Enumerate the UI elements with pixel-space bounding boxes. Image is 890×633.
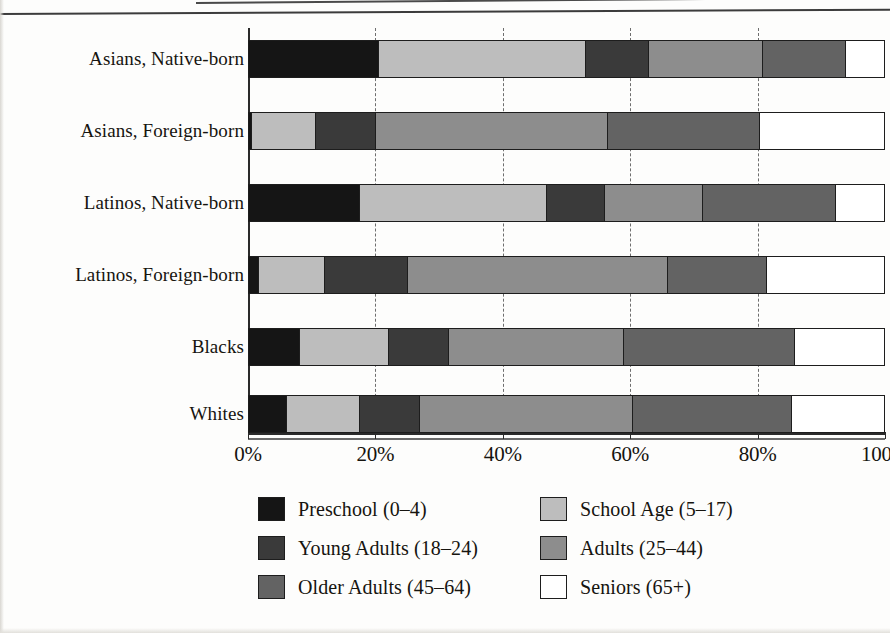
bar-segment	[325, 257, 408, 293]
category-label-2: Latinos, Native-born	[84, 192, 244, 214]
y-axis-line	[248, 28, 250, 434]
bar-segment	[316, 113, 376, 149]
category-label-5: Whites	[190, 403, 244, 425]
bar-segment	[360, 185, 547, 221]
bar-segment	[795, 329, 884, 365]
scan-edge-left	[0, 0, 4, 633]
category-label-1: Asians, Foreign-born	[81, 120, 244, 142]
x-tick-0	[248, 432, 249, 439]
category-label-0: Asians, Native-born	[89, 48, 244, 70]
bar-segment	[300, 329, 389, 365]
bar-segment	[259, 257, 326, 293]
gridline-60	[630, 28, 631, 432]
legend-swatch-icon	[258, 536, 285, 560]
bar-1	[248, 112, 885, 150]
legend-label: Adults (25–44)	[580, 537, 703, 560]
bar-segment	[249, 185, 360, 221]
bar-2	[248, 184, 885, 222]
x-tick-60	[630, 432, 631, 439]
legend-swatch-icon	[540, 575, 567, 599]
bar-segment	[763, 41, 846, 77]
bar-segment	[668, 257, 766, 293]
legend-label: Older Adults (45–64)	[298, 576, 471, 599]
bar-0	[248, 40, 885, 78]
bar-segment	[408, 257, 668, 293]
bar-segment	[586, 41, 650, 77]
x-tick-label-80: 80%	[739, 442, 777, 467]
bar-segment	[249, 329, 300, 365]
category-label-4: Blacks	[192, 336, 244, 358]
bar-segment	[449, 329, 624, 365]
bar-segment	[608, 113, 760, 149]
gridline-40	[503, 28, 504, 432]
gridline-80	[758, 28, 759, 432]
legend-label: Young Adults (18–24)	[298, 537, 478, 560]
bar-segment	[379, 41, 585, 77]
bar-segment	[249, 396, 287, 432]
bar-4	[248, 328, 885, 366]
bar-segment	[624, 329, 795, 365]
scan-edge-bottom	[0, 628, 890, 633]
bar-segment	[846, 41, 884, 77]
bar-5	[248, 395, 885, 433]
legend-label: School Age (5–17)	[580, 498, 733, 521]
bar-segment	[389, 329, 449, 365]
bar-segment	[703, 185, 836, 221]
legend-swatch-icon	[258, 575, 285, 599]
x-tick-label-100: 100%	[861, 442, 890, 467]
legend-item-2[interactable]: Young Adults (18–24)	[258, 536, 478, 560]
legend-item-1[interactable]: School Age (5–17)	[540, 497, 733, 521]
bar-segment	[547, 185, 604, 221]
bar-segment	[633, 396, 792, 432]
bar-segment	[252, 113, 316, 149]
bar-segment	[287, 396, 360, 432]
gridline-20	[375, 28, 376, 432]
bar-segment	[649, 41, 763, 77]
legend-swatch-icon	[540, 497, 567, 521]
bar-segment	[360, 396, 420, 432]
legend-swatch-icon	[540, 536, 567, 560]
bar-segment	[249, 257, 259, 293]
category-label-3: Latinos, Foreign-born	[75, 264, 244, 286]
x-tick-label-40: 40%	[484, 442, 522, 467]
chart-page: 0%20%40%60%80%100% Asians, Native-bornAs…	[0, 0, 890, 633]
bar-segment	[767, 257, 884, 293]
x-tick-100	[885, 432, 886, 439]
bar-segment	[376, 113, 608, 149]
legend-item-0[interactable]: Preschool (0–4)	[258, 497, 427, 521]
chart-legend: Preschool (0–4)School Age (5–17)Young Ad…	[0, 492, 890, 612]
x-axis-line-secondary	[248, 438, 885, 440]
x-tick-20	[375, 432, 376, 439]
bar-3	[248, 256, 885, 294]
bar-segment	[249, 41, 379, 77]
legend-label: Preschool (0–4)	[298, 498, 427, 521]
legend-item-5[interactable]: Seniors (65+)	[540, 575, 691, 599]
legend-swatch-icon	[258, 497, 285, 521]
plot-area: 0%20%40%60%80%100% Asians, Native-bornAs…	[0, 28, 890, 448]
legend-label: Seniors (65+)	[580, 576, 691, 599]
legend-item-4[interactable]: Older Adults (45–64)	[258, 575, 471, 599]
top-rule-upper	[196, 0, 890, 4]
top-rule-lower	[0, 9, 890, 15]
x-tick-label-20: 20%	[356, 442, 394, 467]
bar-segment	[836, 185, 884, 221]
x-tick-40	[503, 432, 504, 439]
bar-segment	[760, 113, 884, 149]
x-tick-label-60: 60%	[611, 442, 649, 467]
x-tick-80	[758, 432, 759, 439]
bar-segment	[605, 185, 703, 221]
bar-segment	[420, 396, 633, 432]
legend-item-3[interactable]: Adults (25–44)	[540, 536, 703, 560]
x-tick-label-0: 0%	[234, 442, 262, 467]
bar-segment	[792, 396, 884, 432]
